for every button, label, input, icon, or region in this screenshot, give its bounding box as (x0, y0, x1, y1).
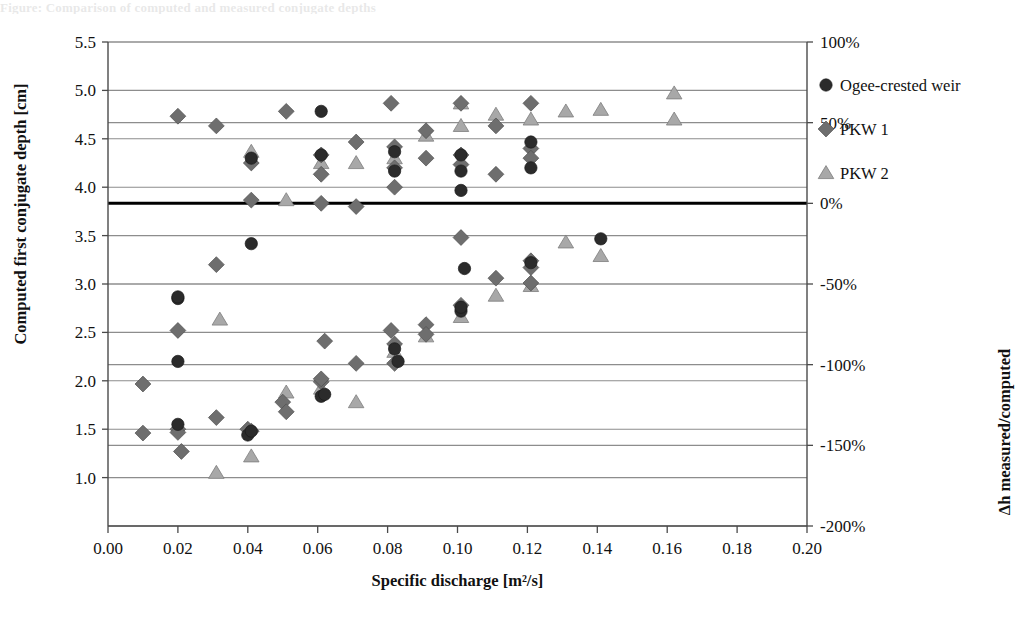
data-point-triangle (593, 102, 609, 115)
data-point-triangle (593, 249, 609, 262)
data-point-triangle (818, 166, 834, 179)
data-point-diamond (317, 333, 333, 349)
y-tick-label: 1.0 (75, 469, 96, 488)
x-tick-label: 0.06 (303, 539, 333, 558)
data-point-triangle (666, 86, 682, 99)
data-point-circle (455, 184, 467, 196)
data-point-circle (458, 262, 470, 274)
data-point-circle (455, 149, 467, 161)
data-point-circle (525, 257, 537, 269)
data-point-diamond (348, 134, 364, 150)
data-point-diamond (135, 376, 151, 392)
legend-label: Ogee-crested weir (840, 76, 961, 95)
chart-figure: 1.01.52.02.53.03.54.04.55.05.5100%50%0%-… (0, 0, 1027, 630)
x-tick-label: 0.18 (722, 539, 752, 558)
y-tick-label: 3.5 (75, 227, 96, 246)
data-point-circle (319, 388, 331, 400)
series-ogee-crested-weir-y2 (172, 105, 607, 430)
data-point-circle (525, 162, 537, 174)
y-tick-label: 2.5 (75, 323, 96, 342)
y-tick-label: 1.5 (75, 420, 96, 439)
data-point-triangle (453, 118, 469, 131)
data-point-circle (388, 146, 400, 158)
data-point-triangle (212, 312, 228, 325)
y-axis-title: Computed first conjugate depth [cm] (11, 83, 30, 344)
data-point-triangle (244, 449, 260, 462)
data-point-diamond (170, 323, 186, 339)
data-point-diamond (208, 410, 224, 426)
y2-tick-label: 0% (820, 194, 843, 213)
data-point-circle (245, 238, 257, 250)
y2-tick-label: -100% (820, 356, 865, 375)
data-point-diamond (243, 192, 259, 208)
data-point-circle (525, 136, 537, 148)
y-tick-label: 4.0 (75, 178, 96, 197)
data-point-triangle (558, 104, 574, 117)
data-point-circle (172, 355, 184, 367)
data-point-circle (315, 149, 327, 161)
y-axis-ticks: 1.01.52.02.53.03.54.04.55.05.5 (75, 33, 108, 488)
legend-label: PKW 2 (840, 164, 889, 183)
data-point-triangle (666, 112, 682, 125)
data-point-diamond (170, 108, 186, 124)
data-point-circle (820, 79, 832, 91)
y2-tick-label: 100% (820, 33, 860, 52)
data-point-diamond (173, 444, 189, 460)
data-point-triangle (278, 193, 294, 206)
y2-axis-title: Δh measured/computed (995, 349, 1014, 515)
gridlines (108, 42, 807, 526)
data-point-circle (388, 165, 400, 177)
series-pkw-1-y (135, 230, 539, 460)
x-tick-label: 0.00 (93, 539, 123, 558)
y2-tick-label: -50% (820, 275, 857, 294)
legend-label: PKW 1 (840, 120, 889, 139)
y2-axis-ticks: 100%50%0%-50%-100%-150%-200% (807, 33, 865, 536)
legend: Ogee-crested weirPKW 1PKW 2 (818, 76, 961, 183)
legend-item-ogee-crested-weir[interactable]: Ogee-crested weir (820, 76, 961, 95)
x-tick-label: 0.02 (163, 539, 193, 558)
x-tick-label: 0.16 (652, 539, 682, 558)
y2-tick-label: -200% (820, 517, 865, 536)
y-tick-label: 4.5 (75, 130, 96, 149)
x-axis-ticks: 0.000.020.040.060.080.100.120.140.160.18… (93, 526, 822, 558)
data-point-circle (392, 355, 404, 367)
x-tick-label: 0.10 (443, 539, 473, 558)
data-point-diamond (488, 166, 504, 182)
legend-item-pkw-2[interactable]: PKW 2 (818, 164, 889, 183)
data-point-circle (315, 105, 327, 117)
data-points (135, 86, 682, 478)
x-tick-label: 0.14 (582, 539, 612, 558)
data-point-diamond (387, 179, 403, 195)
data-point-circle (455, 165, 467, 177)
data-point-diamond (453, 230, 469, 246)
series-pkw-1-y2 (135, 95, 539, 440)
x-tick-label: 0.20 (792, 539, 822, 558)
x-tick-label: 0.08 (373, 539, 403, 558)
data-point-diamond (208, 257, 224, 273)
y-tick-label: 2.0 (75, 372, 96, 391)
data-point-triangle (348, 156, 364, 169)
y-tick-label: 5.0 (75, 81, 96, 100)
data-point-diamond (383, 95, 399, 111)
x-tick-label: 0.04 (233, 539, 263, 558)
data-point-diamond (313, 195, 329, 211)
data-point-diamond (278, 103, 294, 119)
data-point-circle (172, 418, 184, 430)
y-tick-label: 5.5 (75, 33, 96, 52)
series-pkw-2-y (209, 86, 682, 478)
series-pkw-2-y2 (212, 96, 682, 325)
data-point-circle (245, 152, 257, 164)
data-point-diamond (208, 118, 224, 134)
data-point-diamond (135, 425, 151, 441)
data-point-triangle (523, 112, 539, 125)
data-point-circle (172, 291, 184, 303)
scatter-chart: 1.01.52.02.53.03.54.04.55.05.5100%50%0%-… (0, 0, 1027, 630)
y2-tick-label: -150% (820, 436, 865, 455)
data-point-diamond (383, 323, 399, 339)
data-point-triangle (558, 235, 574, 248)
data-point-diamond (348, 355, 364, 371)
data-point-diamond (348, 199, 364, 215)
data-point-diamond (418, 150, 434, 166)
data-point-triangle (348, 395, 364, 408)
data-point-diamond (523, 95, 539, 111)
